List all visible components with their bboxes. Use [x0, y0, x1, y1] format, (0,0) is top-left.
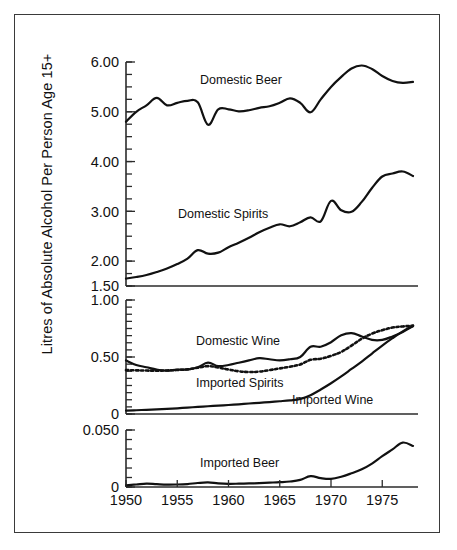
x-tick-label-1: 1955 [161, 492, 193, 508]
series-line-domestic-spirits [126, 171, 413, 278]
chart-canvas: 1.502.003.004.005.006.0000.501.0000.0501… [0, 0, 457, 550]
series-annotation-imported-beer: Imported Beer [200, 456, 279, 470]
y-tick-label-middle-0: 0 [111, 406, 119, 422]
series-annotation-imported-wine: Imported Wine [292, 393, 373, 407]
series-line-domestic-wine [126, 326, 413, 370]
x-tick-label-0: 1950 [110, 492, 142, 508]
y-tick-label-top-3: 4.00 [91, 154, 119, 170]
x-tick-label-2: 1960 [212, 492, 244, 508]
y-tick-label-top-2: 3.00 [91, 204, 119, 220]
y-tick-label-middle-1: 0.50 [91, 349, 119, 365]
x-tick-label-4: 1970 [315, 492, 347, 508]
series-annotation-domestic-beer: Domestic Beer [200, 73, 282, 87]
series-annotation-domestic-spirits: Domestic Spirits [178, 207, 268, 221]
series-annotation-imported-spirits: Imported Spirits [196, 376, 284, 390]
series-annotation-domestic-wine: Domestic Wine [196, 334, 280, 348]
y-tick-label-bottom-1: 0.050 [83, 422, 119, 438]
x-tick-label-3: 1965 [264, 492, 296, 508]
alcohol-consumption-figure: Litres of Absolute Alcohol Per Person Ag… [0, 0, 457, 550]
y-tick-label-top-1: 2.00 [91, 253, 119, 269]
x-tick-label-5: 1975 [366, 492, 398, 508]
y-tick-label-top-4: 5.00 [91, 104, 119, 120]
y-tick-label-top-5: 6.00 [91, 54, 119, 70]
series-line-imported-spirits [126, 326, 413, 372]
y-tick-label-middle-2: 1.00 [91, 292, 119, 308]
